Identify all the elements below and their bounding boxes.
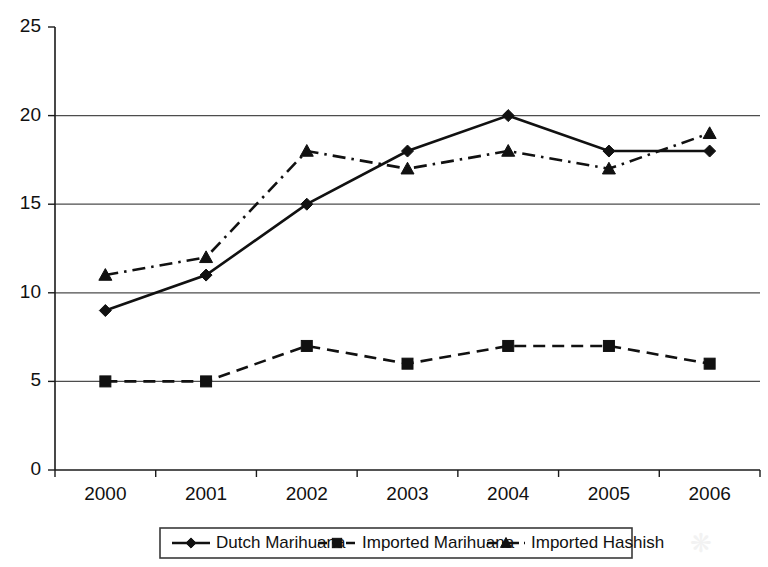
x-tick-label-2002: 2002 xyxy=(286,483,328,504)
y-tick-group: 0510152025 xyxy=(20,15,55,479)
x-tick-label-2004: 2004 xyxy=(487,483,530,504)
x-tick-group: 2000200120022003200420052006 xyxy=(55,470,760,504)
chart-canvas: 0510152025 2000200120022003200420052006 … xyxy=(0,0,768,567)
series-layer xyxy=(99,110,716,387)
y-tick-label: 25 xyxy=(20,15,41,36)
data-point-marker-triangle-2006 xyxy=(703,127,716,139)
x-tick-label-2005: 2005 xyxy=(588,483,630,504)
data-point-marker-triangle-2004 xyxy=(502,145,515,157)
data-point-marker-square-2006 xyxy=(704,358,715,369)
x-tick-label-2003: 2003 xyxy=(386,483,428,504)
data-point-marker-triangle-2003 xyxy=(401,162,414,174)
data-point-marker-diamond-2000 xyxy=(99,305,111,317)
data-point-marker-triangle-2001 xyxy=(200,251,213,263)
y-tick-label: 10 xyxy=(20,281,41,302)
data-point-marker-square-2004 xyxy=(503,340,514,351)
legend-label: Imported Hashish xyxy=(531,533,664,552)
line-chart: 0510152025 2000200120022003200420052006 … xyxy=(0,0,768,567)
y-axis: 0510152025 xyxy=(20,15,55,479)
y-tick-label: 0 xyxy=(30,458,41,479)
data-point-marker-square-2000 xyxy=(100,376,111,387)
x-tick-label-2000: 2000 xyxy=(84,483,126,504)
data-point-marker-square-2005 xyxy=(603,340,614,351)
data-point-marker-square-2003 xyxy=(402,358,413,369)
data-point-marker-diamond-2005 xyxy=(603,145,615,157)
series-dutch-marihuana xyxy=(99,110,715,317)
x-tick-label-2001: 2001 xyxy=(185,483,227,504)
x-axis: 2000200120022003200420052006 xyxy=(55,470,760,504)
data-point-marker-square-legend xyxy=(332,538,341,547)
watermark: ❋ xyxy=(690,528,712,558)
series-imported-marihuana xyxy=(100,340,715,386)
data-point-marker-diamond-2006 xyxy=(704,145,716,157)
chart-legend[interactable]: Dutch MarihuanaImported MarihuanaImporte… xyxy=(160,528,664,558)
data-point-marker-square-2001 xyxy=(201,376,212,387)
data-point-marker-triangle-2002 xyxy=(300,145,313,157)
y-tick-label: 5 xyxy=(30,369,41,390)
data-point-marker-diamond-2004 xyxy=(502,110,514,122)
x-tick-label-2006: 2006 xyxy=(689,483,731,504)
y-tick-label: 15 xyxy=(20,192,41,213)
data-point-marker-square-2002 xyxy=(301,340,312,351)
data-point-marker-diamond-2003 xyxy=(402,145,414,157)
y-tick-label: 20 xyxy=(20,104,41,125)
